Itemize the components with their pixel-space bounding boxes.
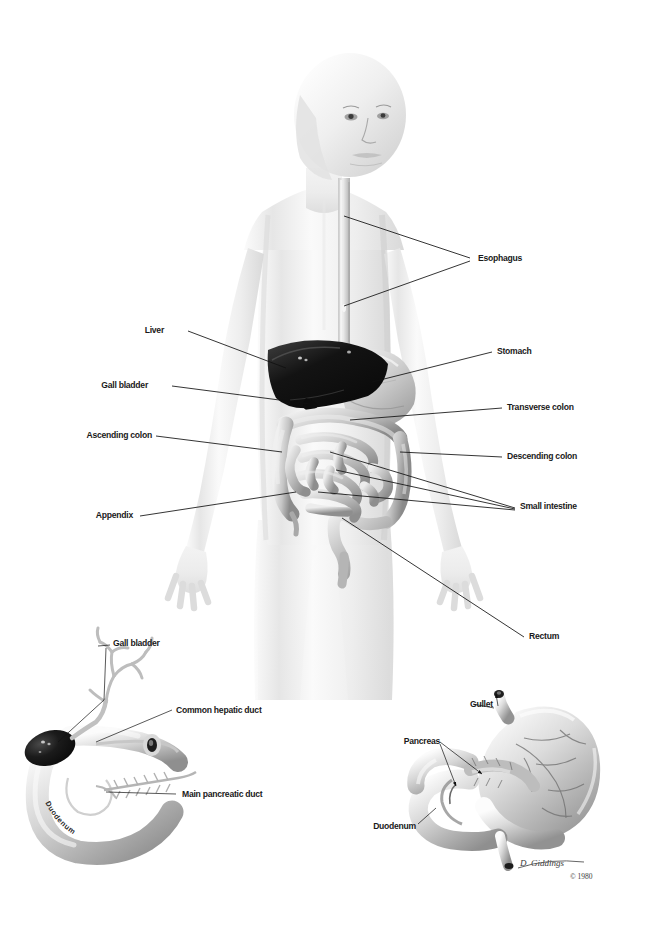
label-esophagus: Esophagus	[478, 253, 523, 263]
label-stomach: Stomach	[497, 346, 532, 356]
anatomy-illustration: Esophagus Stomach Transverse colon Desce…	[0, 0, 645, 933]
gallbladder-duodenum-detail: Duodenum Gall bladder Common hepatic duc…	[20, 628, 263, 854]
label-transverse-colon: Transverse colon	[507, 402, 574, 412]
artist-credit: D. Giddings © 1980	[518, 858, 593, 881]
detail-label-common-hepatic-duct: Common hepatic duct	[176, 705, 262, 715]
label-gall-bladder: Gall bladder	[101, 380, 149, 390]
esophagus-organ	[338, 178, 350, 345]
label-liver: Liver	[145, 325, 165, 335]
detail-label-gullet: Gullet	[470, 699, 493, 709]
label-small-intestine: Small intestine	[520, 501, 577, 511]
detail-label-pancreas: Pancreas	[404, 736, 441, 746]
copyright-notice: © 1980	[570, 872, 593, 881]
labels-main-left: Liver Gall bladder Ascending colon Appen…	[87, 325, 165, 520]
label-ascending-colon: Ascending colon	[87, 430, 152, 440]
labels-main-right: Esophagus Stomach Transverse colon Desce…	[478, 253, 577, 641]
label-appendix: Appendix	[96, 510, 134, 520]
stomach-pancreas-detail: Gullet Pancreas Duodenum	[373, 690, 600, 869]
artist-signature: D. Giddings	[519, 858, 565, 868]
label-descending-colon: Descending colon	[507, 451, 577, 461]
detail-label-main-pancreatic-duct: Main pancreatic duct	[182, 789, 263, 799]
detail-label-duodenum-right: Duodenum	[373, 821, 416, 831]
label-rectum: Rectum	[529, 631, 560, 641]
detail-label-gall-bladder: Gall bladder	[113, 638, 161, 648]
